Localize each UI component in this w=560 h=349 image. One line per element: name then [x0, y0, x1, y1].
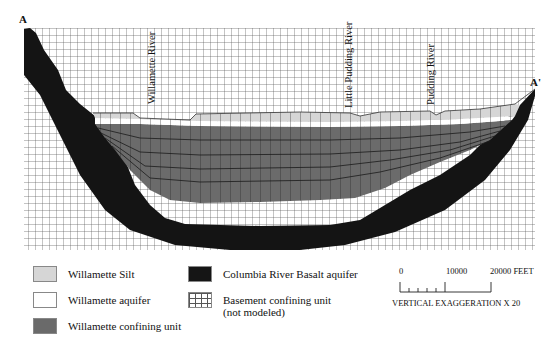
scale-tick-20000: 20000 FEET: [490, 266, 534, 276]
swatch-columbia-river-basalt: [188, 266, 212, 282]
section-start-label: A: [19, 13, 27, 25]
scale-tick-0: 0: [399, 266, 403, 276]
section-end-label: A': [530, 76, 541, 88]
legend-item-basement-confining-unit: Basement confining unit (not modeled): [188, 292, 331, 318]
scale-bar: [398, 280, 513, 294]
legend-item-columbia-river-basalt: Columbia River Basalt aquifer: [188, 266, 358, 282]
swatch-willamette-confining-unit: [33, 318, 57, 334]
legend-label-basement-note: (not modeled): [223, 306, 285, 318]
river-label-willamette: Willamette River: [146, 32, 157, 104]
cross-section-diagram: [0, 0, 560, 260]
swatch-basement-confining-unit: [188, 292, 212, 308]
legend-item-willamette-aquifer: Willamette aquifer: [33, 292, 150, 308]
river-label-little-pudding: Little Pudding River: [343, 22, 354, 108]
legend-label-basement: Basement confining unit: [223, 294, 331, 306]
scale-tick-10000: 10000: [446, 266, 467, 276]
swatch-willamette-aquifer: [33, 292, 57, 308]
vertical-exaggeration-note: VERTICAL EXAGGERATION X 20: [392, 298, 520, 308]
river-label-pudding: Pudding River: [425, 44, 436, 105]
swatch-willamette-silt: [33, 266, 57, 282]
legend-item-willamette-silt: Willamette Silt: [33, 266, 134, 282]
legend-item-willamette-confining-unit: Willamette confining unit: [33, 318, 181, 334]
